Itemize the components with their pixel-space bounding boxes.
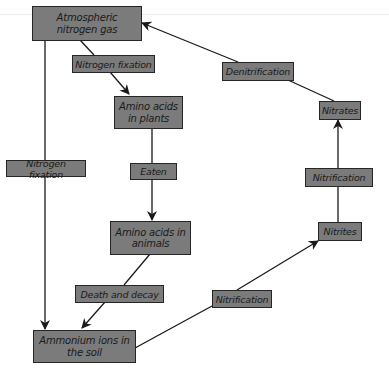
node-nitrates: Nitrates [319,101,361,120]
edge-denitrification-to-atm-arrow [142,23,238,62]
edge-nitrates-to-denitrification [288,80,334,101]
label-nitrification-right: Nitrification [305,168,373,187]
edge-fixation-to-plants-arrow [110,72,129,94]
label-eaten: Eaten [130,163,177,180]
label-nitrification-bottom: Nitrification [212,290,272,308]
edge-decay-to-ammonium-arrow [82,302,105,328]
label-nitrogen-fixation-left: Nitrogen fixation [6,160,86,177]
label-denitrification: Denitrification [222,62,294,81]
node-nitrites: Nitrites [318,222,362,241]
node-amino-acids-plants: Amino acids in plants [114,96,183,129]
label-nitrogen-fixation-top: Nitrogen fixation [72,55,155,73]
edge-nitrification-to-nitrites-arrow [237,241,318,290]
node-amino-acids-animals: Amino acids in animals [110,221,191,255]
edge-atm-to-fixation [80,40,94,55]
node-ammonium-ions: Ammonium ions in the soil [33,330,136,363]
label-death-and-decay: Death and decay [75,285,164,303]
edge-animals-to-decay [124,254,150,285]
edge-ammonium-to-nitrification [135,306,212,348]
edges-layer [0,0,389,376]
node-atmospheric-nitrogen: Atmospheric nitrogen gas [32,6,142,41]
